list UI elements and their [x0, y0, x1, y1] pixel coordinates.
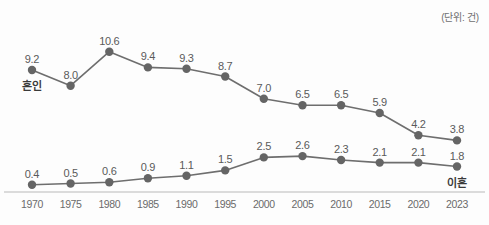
data-point-label: 10.6 — [99, 35, 119, 47]
data-point-marker — [453, 136, 461, 144]
data-point-marker — [182, 172, 190, 180]
data-point-marker — [414, 131, 422, 139]
series-layer — [28, 48, 461, 190]
data-point-label: 8.0 — [63, 69, 77, 81]
data-point-marker — [28, 66, 36, 74]
data-point-label: 1.1 — [179, 159, 193, 171]
x-axis-tick-label: 1990 — [176, 198, 198, 210]
x-axis-tick-label: 1975 — [60, 198, 82, 210]
data-point-marker — [66, 179, 74, 187]
data-point-marker — [260, 153, 268, 161]
data-point-marker — [376, 109, 384, 117]
data-point-label: 3.8 — [450, 123, 464, 135]
data-point-label: 2.1 — [411, 146, 425, 158]
x-axis-tick-label: 1995 — [214, 198, 236, 210]
data-point-label: 4.2 — [411, 118, 425, 130]
data-point-label: 7.0 — [257, 82, 271, 94]
series-label-이혼: 이혼 — [447, 174, 466, 190]
x-axis-tick-label: 2005 — [292, 198, 314, 210]
data-point-marker — [144, 63, 152, 71]
marriage-divorce-rate-line-chart: (단위: 건) 9.28.010.69.49.38.77.06.56.55.94… — [0, 0, 489, 225]
data-point-marker — [105, 178, 113, 186]
data-point-label: 9.2 — [25, 53, 39, 65]
series-label-혼인: 혼인 — [22, 77, 41, 93]
data-point-marker — [414, 158, 422, 166]
data-point-label: 9.4 — [141, 50, 155, 62]
data-point-label: 2.5 — [257, 140, 271, 152]
data-point-marker — [221, 166, 229, 174]
data-point-marker — [337, 156, 345, 164]
data-point-label: 1.5 — [218, 153, 232, 165]
series-line-1 — [32, 156, 457, 185]
data-point-label: 1.8 — [450, 150, 464, 162]
x-axis-tick-label: 2023 — [446, 198, 468, 210]
x-axis-tick-label: 1985 — [137, 198, 159, 210]
data-point-label: 2.1 — [372, 146, 386, 158]
x-axis-tick-label: 2000 — [253, 198, 275, 210]
x-axis-tick-label: 1970 — [21, 198, 43, 210]
data-point-marker — [453, 162, 461, 170]
data-point-label: 6.5 — [334, 88, 348, 100]
data-point-label: 6.5 — [295, 88, 309, 100]
data-point-marker — [376, 158, 384, 166]
x-axis-tick-label: 1980 — [98, 198, 120, 210]
data-point-label: 2.6 — [295, 139, 309, 151]
data-point-marker — [182, 65, 190, 73]
data-point-label: 5.9 — [372, 96, 386, 108]
data-point-marker — [28, 181, 36, 189]
data-point-label: 0.6 — [102, 165, 116, 177]
data-point-marker — [105, 48, 113, 56]
data-point-label: 0.4 — [25, 168, 39, 180]
data-point-label: 9.3 — [179, 52, 193, 64]
data-point-label: 0.5 — [63, 167, 77, 179]
data-point-marker — [298, 152, 306, 160]
data-point-marker — [144, 174, 152, 182]
data-point-marker — [298, 101, 306, 109]
x-axis-tick-label: 2010 — [330, 198, 352, 210]
data-point-marker — [260, 95, 268, 103]
data-point-marker — [337, 101, 345, 109]
x-axis-tick-label: 2020 — [408, 198, 430, 210]
x-axis-tick-label: 2015 — [369, 198, 391, 210]
data-point-label: 0.9 — [141, 161, 155, 173]
data-point-label: 2.3 — [334, 143, 348, 155]
series-line-0 — [32, 52, 457, 141]
chart-plot-area — [0, 0, 489, 225]
data-point-marker — [221, 72, 229, 80]
data-point-marker — [66, 82, 74, 90]
data-point-label: 8.7 — [218, 60, 232, 72]
